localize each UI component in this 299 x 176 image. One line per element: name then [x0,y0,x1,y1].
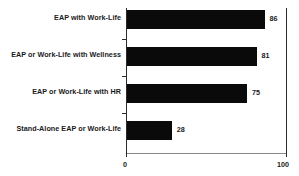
bar [127,10,265,29]
category-label: Stand-Alone EAP or Work-Life [3,125,121,133]
category-label: EAP or Work-Life with HR [3,88,121,96]
y-axis-tick [122,76,126,77]
x-axis-tick-label: 100 [277,161,289,169]
x-axis-tick-label: 0 [123,161,127,169]
x-axis-tick [126,153,127,157]
x-axis-tick [286,153,287,157]
y-axis-tick [122,39,126,40]
bar-value-label: 75 [252,89,260,97]
category-label: EAP with Work-Life [3,14,121,22]
bar-chart: EAP with Work-Life EAP or Work-Life with… [0,0,299,176]
x-axis-line [126,153,286,154]
bar [127,47,257,66]
bar [127,121,172,140]
bar-value-label: 28 [177,126,185,134]
category-label: EAP or Work-Life with Wellness [3,51,121,59]
bar-value-label: 81 [262,52,270,60]
y-axis-line [126,8,127,154]
y-axis-tick [122,113,126,114]
right-axis-line [286,8,287,154]
bar [127,84,247,103]
bar-value-label: 86 [270,15,278,23]
